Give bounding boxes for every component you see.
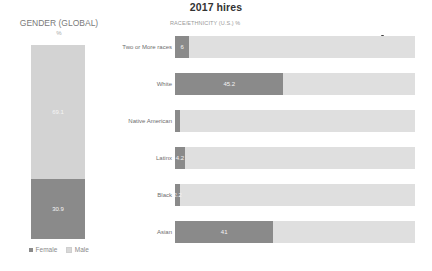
legend-item-male[interactable]: Male [66,246,89,253]
race-bar-rows: Two or More races 6 White 45.2 Native Am… [118,36,432,258]
bar-track-black: 2.2 [175,184,415,206]
bar-fill-white[interactable]: 45.2 [175,73,283,95]
page-title: 2017 hires [0,1,432,13]
gender-axis-unit-label: % [0,30,118,36]
legend-label-male: Male [75,246,89,253]
bar-row[interactable]: Black 2.2 [118,184,432,206]
legend-swatch-male-icon [66,247,72,253]
bar-label-asian: Asian [118,229,175,235]
bar-row[interactable]: White 45.2 [118,73,432,95]
bar-label-two-or-more-races: Two or More races [118,44,175,50]
bar-track-two-or-more-races: 6 [175,36,415,58]
gender-chart-panel: GENDER (GLOBAL) % 69.1 30.9 Female Male [0,18,118,268]
bar-value-black: 2.2 [175,192,182,198]
gender-value-female: 30.9 [52,206,64,212]
bar-track-latinx: 4.2 [175,147,415,169]
bar-row[interactable]: Latinx 4.2 [118,147,432,169]
gender-stacked-bar: 69.1 30.9 [31,45,85,239]
bar-track-white: 45.2 [175,73,415,95]
bar-fill-two-or-more-races[interactable]: 6 [175,36,189,58]
gender-value-male: 69.1 [52,109,64,115]
bar-value-latinx: 4.2 [176,155,184,161]
bar-row[interactable]: Two or More races 6 [118,36,432,58]
bar-track-asian: 41 [175,221,415,243]
bar-fill-native-american[interactable]: 0.3 [175,110,180,132]
race-chart-title: RACE/ETHNICITY (U.S.) % [170,20,240,26]
legend-label-female: Female [36,246,58,253]
gender-chart-title: GENDER (GLOBAL) [0,18,118,28]
bar-value-asian: 41 [221,229,228,235]
race-ethnicity-chart-panel: RACE/ETHNICITY (U.S.) % Two or More race… [118,18,432,268]
gender-segment-female[interactable]: 30.9 [31,179,85,239]
legend-swatch-female-icon [29,248,33,252]
bar-label-native-american: Native American [118,118,175,124]
bar-label-white: White [118,81,175,87]
bar-fill-asian[interactable]: 41 [175,221,273,243]
bar-value-white: 45.2 [223,81,235,87]
bar-track-native-american: 0.3 [175,110,415,132]
bar-label-latinx: Latinx [118,155,175,161]
legend-item-female[interactable]: Female [29,246,57,253]
bar-label-black: Black [118,192,175,198]
bar-fill-black[interactable]: 2.2 [175,184,180,206]
bar-fill-latinx[interactable]: 4.2 [175,147,185,169]
bar-row[interactable]: Native American 0.3 [118,110,432,132]
bar-value-two-or-more-races: 6 [181,44,184,50]
gender-segment-male[interactable]: 69.1 [31,45,85,179]
gender-legend: Female Male [0,246,118,253]
bar-row[interactable]: Asian 41 [118,221,432,243]
